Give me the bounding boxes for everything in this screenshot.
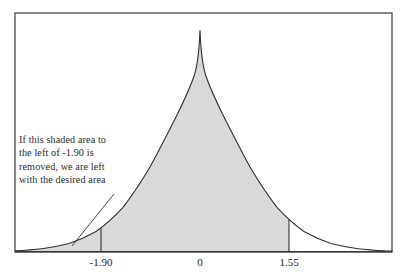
tick-label-zero: 0 <box>197 256 203 268</box>
tick-label-1-55: 1.55 <box>279 256 298 268</box>
annotation-line-1: If this shaded area to <box>19 133 131 146</box>
annotation-text: If this shaded area to the left of -1.90… <box>19 133 131 186</box>
annotation-line-3: removed, we are left <box>19 160 131 173</box>
normal-distribution-figure: If this shaded area to the left of -1.90… <box>0 0 407 278</box>
annotation-line-4: with the desired area <box>19 173 131 186</box>
annotation-line-2: the left of -1.90 is <box>19 146 131 159</box>
tick-label-neg-1-90: -1.90 <box>90 256 113 268</box>
